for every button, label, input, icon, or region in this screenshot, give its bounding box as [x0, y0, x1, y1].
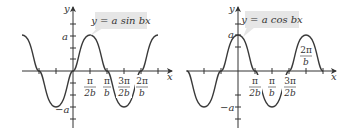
svg-text:b: b	[104, 88, 110, 98]
x-axis-label: x	[167, 71, 173, 82]
y-tick-a: a	[228, 29, 234, 40]
cosine-graph: y x a −a y = a cos bx π 2b π b 3π 2b 2π	[186, 3, 337, 128]
svg-text:2π: 2π	[136, 76, 148, 86]
y-tick-a: a	[62, 31, 68, 42]
y-axis-label: y	[228, 3, 235, 14]
svg-text:2b: 2b	[283, 88, 296, 98]
svg-text:b: b	[269, 88, 275, 98]
trig-graphs: y x a −a y = a sin bx π 2b π b 3π 2b	[0, 0, 355, 140]
y-tick-neg-a: −a	[220, 102, 234, 113]
svg-text:2π: 2π	[300, 45, 312, 55]
x-tick-label-3pi-2b: 3π 2b	[116, 75, 132, 98]
svg-text:b: b	[303, 57, 309, 67]
y-axis-label: y	[63, 3, 70, 14]
x-tick-label-pi-b: π b	[103, 76, 111, 98]
svg-text:π: π	[252, 76, 258, 86]
svg-text:π: π	[104, 76, 110, 86]
svg-text:3π: 3π	[118, 76, 130, 86]
sine-graph: y x a −a y = a sin bx π 2b π b 3π 2b	[22, 3, 173, 128]
x-tick-label-pi-2b: π 2b	[248, 75, 262, 98]
equation-label: y = a cos bx	[240, 14, 303, 25]
x-tick-label-pi-2b: π 2b	[83, 76, 96, 98]
equation-callout: y = a sin bx	[90, 12, 151, 36]
equation-label: y = a sin bx	[90, 15, 151, 26]
svg-text:2b: 2b	[117, 88, 130, 98]
svg-text:b: b	[139, 88, 145, 98]
x-tick-label-pi-b: π b	[268, 76, 276, 98]
svg-text:π: π	[269, 76, 275, 86]
svg-text:π: π	[87, 76, 93, 86]
svg-text:2b: 2b	[83, 88, 96, 98]
svg-text:3π: 3π	[284, 76, 296, 86]
x-tick-label-2pi-b: 2π b	[300, 45, 312, 67]
x-axis-label: x	[331, 71, 337, 82]
x-tick-label-3pi-2b: 3π 2b	[282, 75, 297, 98]
svg-text:2b: 2b	[248, 88, 261, 98]
x-tick-label-2pi-b: 2π b	[135, 75, 149, 98]
y-tick-neg-a: −a	[55, 104, 69, 115]
equation-callout: y = a cos bx	[240, 11, 303, 37]
